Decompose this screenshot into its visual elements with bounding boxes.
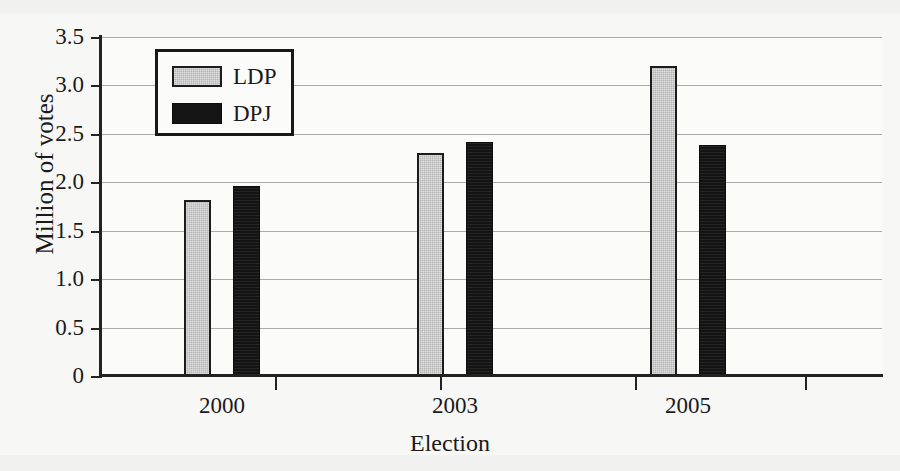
x-tick-mark (275, 377, 277, 390)
bar-chart-figure: 00.51.01.52.02.53.03.5 200020032005 Mill… (0, 0, 900, 471)
x-tick-mark (805, 377, 807, 390)
x-tick-mark (440, 377, 442, 390)
y-tick-label: 0 (22, 364, 84, 387)
bar-dpj-2003 (466, 142, 493, 376)
y-axis-line (99, 35, 102, 378)
legend-item-ldp: LDP (172, 61, 291, 92)
x-tick-label-2000: 2000 (152, 394, 292, 417)
bar-ldp-2000 (184, 200, 211, 376)
bar-dpj-2000 (233, 186, 260, 376)
y-axis-title: Million of votes (31, 24, 59, 324)
scan-artifact-top (0, 0, 900, 14)
scan-artifact-bottom (0, 455, 900, 471)
bar-ldp-2003 (417, 153, 444, 376)
legend-swatch-ldp-icon (172, 66, 222, 87)
bar-ldp-2005 (650, 66, 677, 376)
x-tick-label-2005: 2005 (618, 394, 758, 417)
bar-dpj-2005 (699, 145, 726, 376)
x-tick-mark (635, 377, 637, 390)
legend-swatch-dpj-icon (172, 103, 222, 124)
legend-label-ldp: LDP (233, 65, 276, 88)
x-axis-title: Election (0, 430, 900, 457)
chart-legend: LDP DPJ (155, 49, 294, 136)
x-axis-line (99, 374, 883, 377)
legend-item-dpj: DPJ (172, 98, 291, 129)
legend-label-dpj: DPJ (233, 102, 271, 125)
x-tick-label-2003: 2003 (385, 394, 525, 417)
gridline (100, 37, 882, 38)
